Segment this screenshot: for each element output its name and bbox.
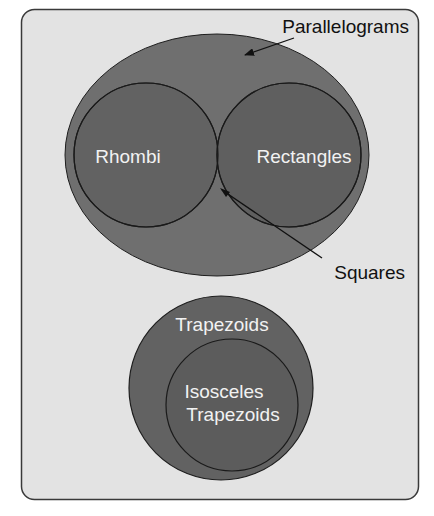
label-isosceles-line1: Isosceles <box>184 381 263 402</box>
label-rectangles: Rectangles <box>256 146 351 167</box>
venn-diagram: Parallelograms Rhombi Rectangles Squares… <box>0 0 434 516</box>
label-isosceles-line2: Trapezoids <box>186 404 279 425</box>
label-trapezoids: Trapezoids <box>175 314 268 335</box>
label-parallelograms: Parallelograms <box>282 16 409 37</box>
label-rhombi: Rhombi <box>95 146 160 167</box>
label-squares: Squares <box>334 262 405 283</box>
